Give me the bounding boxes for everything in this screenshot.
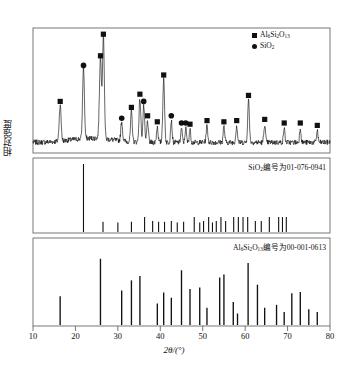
square-marker-icon (145, 113, 150, 118)
square-marker-icon (58, 99, 63, 104)
x-axis-label: 2θ/(°) (0, 345, 348, 355)
x-tick-label: 50 (191, 331, 215, 341)
square-marker-icon (101, 32, 106, 37)
circle-marker-icon (81, 63, 87, 69)
square-marker-icon (262, 117, 267, 122)
square-marker-icon (315, 123, 320, 128)
x-tick-label: 70 (276, 331, 300, 341)
square-marker-icon (137, 92, 142, 97)
legend-label-silica: SiO2 (260, 41, 274, 52)
x-tick-label: 10 (21, 331, 45, 341)
xrd-figure (0, 0, 348, 369)
figure-background (0, 0, 348, 369)
sio2-reference-note: SiO2编号为01-076-0941 (248, 161, 326, 172)
square-marker-icon (252, 33, 257, 38)
legend-label-mullite: Al6Si2O13 (260, 30, 290, 41)
x-tick-label: 80 (318, 331, 342, 341)
circle-marker-icon (252, 44, 257, 49)
square-marker-icon (187, 122, 192, 127)
square-marker-icon (298, 120, 303, 125)
x-tick-label: 60 (233, 331, 257, 341)
x-tick-label: 20 (63, 331, 87, 341)
square-marker-icon (221, 119, 226, 124)
square-marker-icon (282, 120, 287, 125)
square-marker-icon (234, 118, 239, 123)
square-marker-icon (129, 105, 134, 110)
x-tick-label: 40 (148, 331, 172, 341)
square-marker-icon (98, 53, 103, 58)
legend-entry-silica: SiO2 (252, 41, 290, 52)
square-marker-icon (161, 72, 166, 77)
circle-marker-icon (169, 113, 175, 119)
y-axis-label: 相对强度 (2, 120, 16, 156)
circle-marker-icon (119, 115, 125, 121)
legend-entry-mullite: Al6Si2O13 (252, 30, 290, 41)
x-tick-label: 30 (106, 331, 130, 341)
square-marker-icon (155, 119, 160, 124)
circle-marker-icon (141, 99, 147, 105)
chart-legend: Al6Si2O13 SiO2 (252, 30, 290, 52)
square-marker-icon (204, 118, 209, 123)
mullite-reference-note: Al6Si2O13编号为00-001-0613 (233, 241, 326, 252)
square-marker-icon (246, 93, 251, 98)
